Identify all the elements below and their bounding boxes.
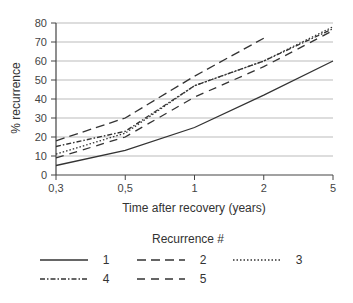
legend-title: Recurrence # — [152, 232, 224, 246]
series-line-4 — [56, 29, 333, 147]
legend-label-4: 4 — [103, 272, 110, 286]
legend-label-5: 5 — [200, 272, 207, 286]
y-tick-label: 10 — [35, 150, 47, 162]
y-tick-label: 80 — [35, 17, 47, 29]
x-tick-label: 0,5 — [118, 182, 133, 194]
legend-label-1: 1 — [103, 253, 110, 267]
line-chart: 01020304050607080 0,30,5125 % recurrence… — [0, 0, 353, 303]
x-tick-label: 2 — [261, 182, 267, 194]
x-tick-label: 5 — [330, 182, 336, 194]
y-tick-label: 40 — [35, 93, 47, 105]
legend: 12345 — [40, 253, 303, 286]
x-tick-label: 1 — [191, 182, 197, 194]
series-line-5 — [56, 31, 333, 158]
x-tick-label: 0,3 — [48, 182, 63, 194]
y-tick-label: 0 — [41, 169, 47, 181]
gridlines — [56, 23, 333, 156]
y-axis-ticks: 01020304050607080 — [35, 17, 56, 181]
legend-label-2: 2 — [200, 253, 207, 267]
x-axis-label: Time after recovery (years) — [122, 201, 266, 215]
y-tick-label: 60 — [35, 55, 47, 67]
series-line-2 — [56, 38, 264, 141]
y-tick-label: 20 — [35, 131, 47, 143]
legend-label-3: 3 — [296, 253, 303, 267]
series-line-1 — [56, 61, 333, 166]
series-line-3 — [56, 27, 333, 154]
y-tick-label: 30 — [35, 112, 47, 124]
series-lines — [56, 27, 333, 166]
y-tick-label: 70 — [35, 36, 47, 48]
y-tick-label: 50 — [35, 74, 47, 86]
y-axis-label: % recurrence — [9, 62, 23, 134]
x-axis-ticks: 0,30,5125 — [48, 175, 336, 194]
